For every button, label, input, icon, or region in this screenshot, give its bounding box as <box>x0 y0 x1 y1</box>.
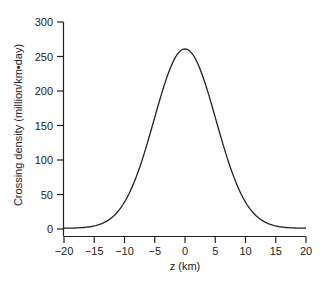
y-tick-label: 50 <box>41 189 53 201</box>
x-tick-label: 0 <box>182 245 188 257</box>
crossing-density-curve <box>64 49 306 228</box>
y-tick-label: 250 <box>35 51 53 63</box>
x-ticks: −20−15−10−505101520 <box>55 237 312 258</box>
x-tick-label: −10 <box>115 245 134 257</box>
x-tick-label: −15 <box>85 245 104 257</box>
x-tick-label: 10 <box>239 245 251 257</box>
y-tick-label: 100 <box>35 154 53 166</box>
y-tick-label: 300 <box>35 16 53 28</box>
y-tick-label: 150 <box>35 120 53 132</box>
x-tick-label: 5 <box>212 245 218 257</box>
x-tick-label: 20 <box>300 245 312 257</box>
y-axis-label: Crossing density (million/km•day) <box>12 44 24 206</box>
x-tick-label: −20 <box>55 245 74 257</box>
y-tick-label: 0 <box>47 223 53 235</box>
y-ticks: 050100150200250300 <box>35 16 64 235</box>
x-tick-label: −5 <box>148 245 161 257</box>
axes <box>64 22 307 237</box>
x-axis-label: z (km) <box>170 260 201 272</box>
crossing-density-chart: 050100150200250300 −20−15−10−505101520 z… <box>0 0 329 283</box>
y-tick-label: 200 <box>35 85 53 97</box>
x-tick-label: 15 <box>270 245 282 257</box>
